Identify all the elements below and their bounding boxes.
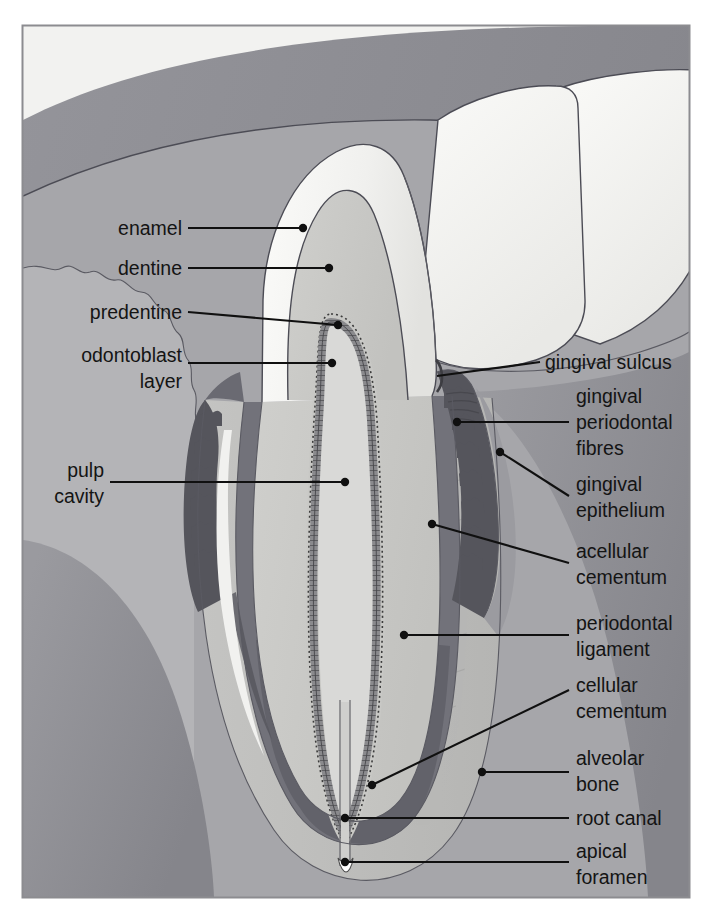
- label-apical-foramen-line2: foramen: [576, 866, 648, 888]
- tooth-diagram-svg: enamel dentine predentine odontoblast la…: [0, 0, 715, 923]
- root-canal-lumen: [341, 702, 349, 864]
- label-gingival-sulcus: gingival sulcus: [545, 351, 672, 373]
- label-gingival-periodontal-fibres-line2: periodontal: [576, 411, 673, 433]
- label-odontoblast-layer-line1: odontoblast: [81, 344, 182, 366]
- label-predentine: predentine: [90, 301, 182, 323]
- label-periodontal-ligament-line1: periodontal: [576, 612, 673, 634]
- label-pulp-cavity-line1: pulp: [67, 459, 104, 481]
- label-apical-foramen-line1: apical: [576, 840, 627, 862]
- label-root-canal: root canal: [576, 807, 662, 829]
- label-acellular-cementum-line1: acellular: [576, 540, 649, 562]
- label-cellular-cementum-line1: cellular: [576, 674, 638, 696]
- label-pulp-cavity-line2: cavity: [54, 485, 104, 507]
- label-alveolar-bone-line1: alveolar: [576, 747, 645, 769]
- label-gingival-epithelium-line1: gingival: [576, 473, 642, 495]
- label-acellular-cementum-line2: cementum: [576, 566, 667, 588]
- adjacent-tooth-near: [419, 86, 585, 369]
- tooth-cross-section-figure: enamel dentine predentine odontoblast la…: [0, 0, 715, 923]
- label-odontoblast-layer-line2: layer: [140, 370, 183, 392]
- label-gingival-periodontal-fibres-line3: fibres: [576, 437, 624, 459]
- label-gingival-periodontal-fibres-line1: gingival: [576, 385, 642, 407]
- label-gingival-epithelium-line2: epithelium: [576, 499, 665, 521]
- label-dentine: dentine: [118, 257, 182, 279]
- label-enamel: enamel: [118, 217, 182, 239]
- label-periodontal-ligament-line2: ligament: [576, 638, 650, 660]
- label-alveolar-bone-line2: bone: [576, 773, 619, 795]
- label-cellular-cementum-line2: cementum: [576, 700, 667, 722]
